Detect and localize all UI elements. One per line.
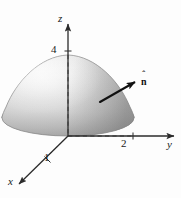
normal-vector-letter: n [141,76,147,87]
normal-vector-foot-dot [99,101,101,103]
figure-canvas [0,0,181,198]
normal-vector-label: ˆ n [141,72,147,87]
y-tick-label-2: 2 [121,138,127,149]
z-tick-label-4: 4 [51,44,57,55]
z-axis-label: z [58,13,62,24]
x-axis-label: x [8,176,13,187]
x-tick-label-1: 1 [44,152,50,163]
y-axis-label: y [167,139,172,150]
paraboloid-figure: z y x 4 2 1 ˆ n [0,0,181,198]
